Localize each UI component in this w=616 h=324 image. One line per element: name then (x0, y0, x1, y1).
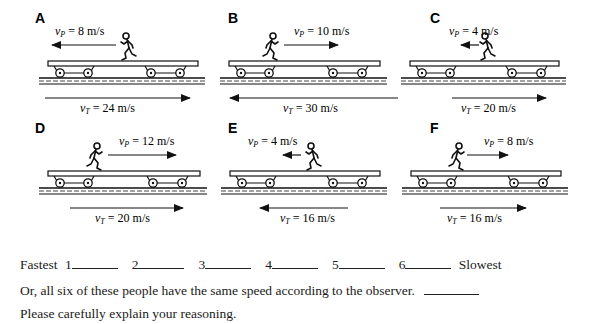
equals-sign: = (304, 24, 317, 38)
equals-sign: = (459, 24, 472, 38)
explain-text: Please carefully explain your reasoning. (20, 306, 236, 321)
wheel-truck (54, 66, 94, 77)
rank-answer-blank[interactable] (272, 267, 318, 269)
rank-answer-blank[interactable] (405, 267, 451, 269)
rank-number: 3 (198, 257, 205, 272)
wheel-truck (147, 176, 188, 187)
panel-label: C (430, 10, 440, 26)
runner-icon (87, 143, 102, 170)
person-velocity-label: vP = 8 m/s (55, 24, 105, 39)
wheel-truck (508, 176, 549, 187)
equals-sign: = (129, 134, 142, 148)
rank-slot-2: 2 (132, 257, 185, 273)
person-velocity-label: vP = 4 m/s (248, 134, 298, 149)
person-velocity-value: 10 m/s (317, 24, 350, 38)
rank-answer-blank[interactable] (72, 267, 118, 269)
track (402, 188, 568, 194)
wheel-truck (417, 176, 457, 187)
panel-c: CvP = 4 m/svT = 20 m/s (401, 10, 566, 116)
panel-label: F (430, 120, 439, 136)
ranking-line: Fastest 123456 Slowest (20, 257, 502, 273)
equals-sign: = (471, 101, 484, 115)
equals-sign: = (293, 101, 306, 115)
panel-label: A (35, 10, 45, 26)
person-velocity-label: vP = 12 m/s (119, 134, 175, 149)
train-velocity-label: vT = 16 m/s (280, 211, 335, 226)
equals-sign: = (65, 24, 78, 38)
panel-label: D (35, 120, 45, 136)
equals-sign: = (457, 211, 470, 225)
rank-number: 6 (399, 257, 406, 272)
panel-d: DvP = 12 m/svT = 20 m/s (35, 120, 207, 226)
wheel-truck (145, 66, 186, 77)
train-platform (411, 171, 561, 176)
runner-icon (306, 143, 321, 170)
panel-a: AvP = 8 m/svT = 24 m/s (35, 10, 205, 116)
rank-answer-blank[interactable] (138, 267, 184, 269)
rank-slot-4: 4 (265, 257, 318, 273)
rank-slot-3: 3 (198, 257, 251, 273)
train-platform (410, 61, 559, 66)
equals-sign: = (258, 134, 271, 148)
equals-sign: = (290, 211, 303, 225)
train-platform (48, 171, 200, 176)
panel-label: B (228, 10, 238, 26)
rank-number: 2 (132, 257, 139, 272)
panel-b: BvP = 10 m/svT = 30 m/s (220, 10, 398, 116)
rank-slot-5: 5 (332, 257, 385, 273)
rank-number: 4 (265, 257, 272, 272)
person-velocity-label: vP = 8 m/s (484, 134, 534, 149)
person-velocity-value: 4 m/s (271, 134, 298, 148)
wheel-truck (506, 66, 547, 77)
person-velocity-value: 8 m/s (507, 134, 534, 148)
train-velocity-value: 16 m/s (303, 211, 336, 225)
train-velocity-value: 24 m/s (103, 101, 136, 115)
wheel-truck (235, 66, 275, 77)
train-velocity-value: 16 m/s (470, 211, 503, 225)
train-velocity-value: 30 m/s (306, 101, 339, 115)
rank-slot-6: 6 (399, 257, 452, 273)
rank-answer-blank[interactable] (339, 267, 385, 269)
wheel-truck (327, 176, 368, 187)
track (39, 188, 207, 194)
runner-icon (263, 33, 278, 60)
same-speed-line: Or, all six of these people have the sam… (20, 283, 479, 299)
train-velocity-value: 20 m/s (484, 101, 517, 115)
panel-label: E (228, 120, 237, 136)
runner-icon (121, 33, 136, 60)
train-velocity-label: vT = 24 m/s (80, 101, 135, 116)
person-velocity-value: 8 m/s (78, 24, 105, 38)
train-diagram: AvP = 8 m/svT = 24 m/sBvP = 10 m/svT = 3… (0, 0, 616, 240)
explain-line: Please carefully explain your reasoning. (20, 306, 236, 322)
train-platform (229, 61, 380, 66)
same-speed-answer-blank[interactable] (424, 294, 479, 295)
equals-sign: = (494, 134, 507, 148)
equals-sign: = (90, 101, 103, 115)
rank-number: 5 (332, 257, 339, 272)
equals-sign: = (105, 211, 118, 225)
train-platform (48, 61, 198, 66)
train-velocity-label: vT = 20 m/s (461, 101, 516, 116)
track (221, 188, 387, 194)
rank-slot-1: 1 (65, 257, 118, 273)
rank-answer-blank[interactable] (205, 267, 251, 269)
train-velocity-value: 20 m/s (118, 211, 151, 225)
wheel-truck (236, 176, 276, 187)
wheel-truck (416, 66, 456, 77)
wheel-truck (327, 66, 368, 77)
slowest-label: Slowest (459, 257, 502, 272)
train-velocity-label: vT = 20 m/s (95, 211, 150, 226)
track (39, 78, 205, 84)
person-velocity-label: vP = 10 m/s (294, 24, 350, 39)
track (220, 78, 387, 84)
person-velocity-value: 12 m/s (142, 134, 175, 148)
person-velocity-label: vP = 4 m/s (449, 24, 499, 39)
fastest-label: Fastest (20, 257, 58, 272)
rank-number: 1 (65, 257, 72, 272)
wheel-truck (54, 176, 94, 187)
same-speed-text: Or, all six of these people have the sam… (20, 283, 415, 298)
panel-e: EvP = 4 m/svT = 16 m/s (221, 120, 387, 226)
train-velocity-label: vT = 30 m/s (283, 101, 338, 116)
train-velocity-label: vT = 16 m/s (447, 211, 502, 226)
panel-f: FvP = 8 m/svT = 16 m/s (402, 120, 568, 226)
